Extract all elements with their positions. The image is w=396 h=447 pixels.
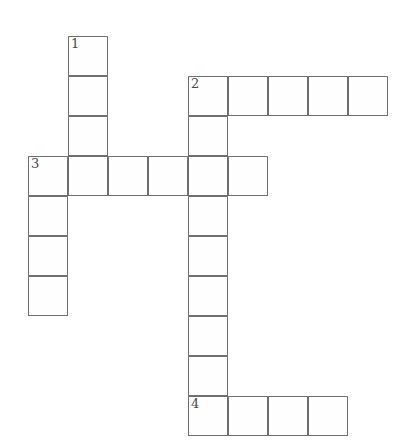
crossword-cell[interactable] [348,76,388,116]
crossword-cell[interactable] [188,156,228,196]
crossword-cell[interactable] [188,116,228,156]
crossword-cell[interactable] [188,196,228,236]
crossword-cell[interactable] [28,236,68,276]
crossword-cell[interactable] [188,236,228,276]
crossword-cell[interactable] [108,156,148,196]
crossword-cell[interactable] [188,276,228,316]
cell-number-4: 4 [191,396,199,411]
crossword-cell[interactable] [188,316,228,356]
crossword-cell[interactable] [188,356,228,396]
crossword-cell[interactable] [268,76,308,116]
crossword-cell[interactable] [228,396,268,436]
crossword-cell[interactable] [28,196,68,236]
crossword-cell[interactable] [308,396,348,436]
crossword-puzzle: 1234 [0,0,396,447]
crossword-cell[interactable]: 2 [188,76,228,116]
cell-number-2: 2 [191,76,199,91]
crossword-cell[interactable] [68,76,108,116]
cell-number-3: 3 [31,156,39,171]
crossword-cell[interactable]: 1 [68,36,108,76]
crossword-cell[interactable]: 3 [28,156,68,196]
crossword-cell[interactable] [228,156,268,196]
crossword-cell[interactable] [268,396,308,436]
crossword-cell[interactable] [148,156,188,196]
crossword-cell[interactable]: 4 [188,396,228,436]
crossword-cell[interactable] [68,116,108,156]
crossword-grid[interactable]: 1234 [0,0,396,447]
cell-number-1: 1 [71,36,79,51]
crossword-cell[interactable] [228,76,268,116]
crossword-cell[interactable] [28,276,68,316]
crossword-cell[interactable] [308,76,348,116]
crossword-cell[interactable] [68,156,108,196]
